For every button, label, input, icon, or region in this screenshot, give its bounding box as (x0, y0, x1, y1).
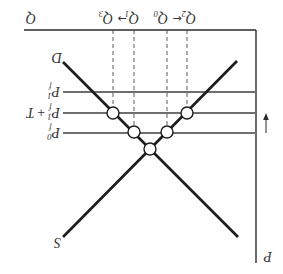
supply-demand-tariff-diagram: P Q D S P1f P1f+T P0f Q2 ← Q0 Q1 → Q3 (0, 0, 283, 274)
tariff-label: T (26, 105, 35, 120)
node-autarky-equilibrium (144, 143, 156, 155)
quantity-label-base: Q (103, 11, 113, 26)
price-label-base: P (51, 105, 61, 120)
demand-label: D (52, 50, 63, 65)
node-supply-at-p0f (161, 126, 173, 138)
supply-shift-arrow-icon: ← (173, 12, 182, 25)
price-label-base: P (51, 84, 61, 99)
quantity-label-base: Q (129, 11, 139, 26)
quantity-label-base: Q (158, 11, 168, 26)
quantity-label-sub: 3 (99, 9, 104, 19)
node-demand-at-p1f-plus-t (107, 107, 119, 119)
node-supply-at-p1f-plus-t (181, 107, 193, 119)
supply-label: S (54, 235, 61, 250)
quantity-axis-label: Q (26, 11, 36, 26)
price-label-base: P (51, 125, 61, 140)
background (0, 0, 283, 274)
quantity-label-base: Q (186, 11, 196, 26)
price-label-p1f: P1f (47, 82, 61, 101)
plus-sign: + (37, 105, 46, 120)
price-axis-label: P (263, 249, 273, 264)
demand-shift-arrow-icon: → (118, 12, 127, 25)
price-label-p1f-plus-tariff: P1f+T (26, 103, 61, 122)
node-demand-at-p0f (128, 126, 140, 138)
